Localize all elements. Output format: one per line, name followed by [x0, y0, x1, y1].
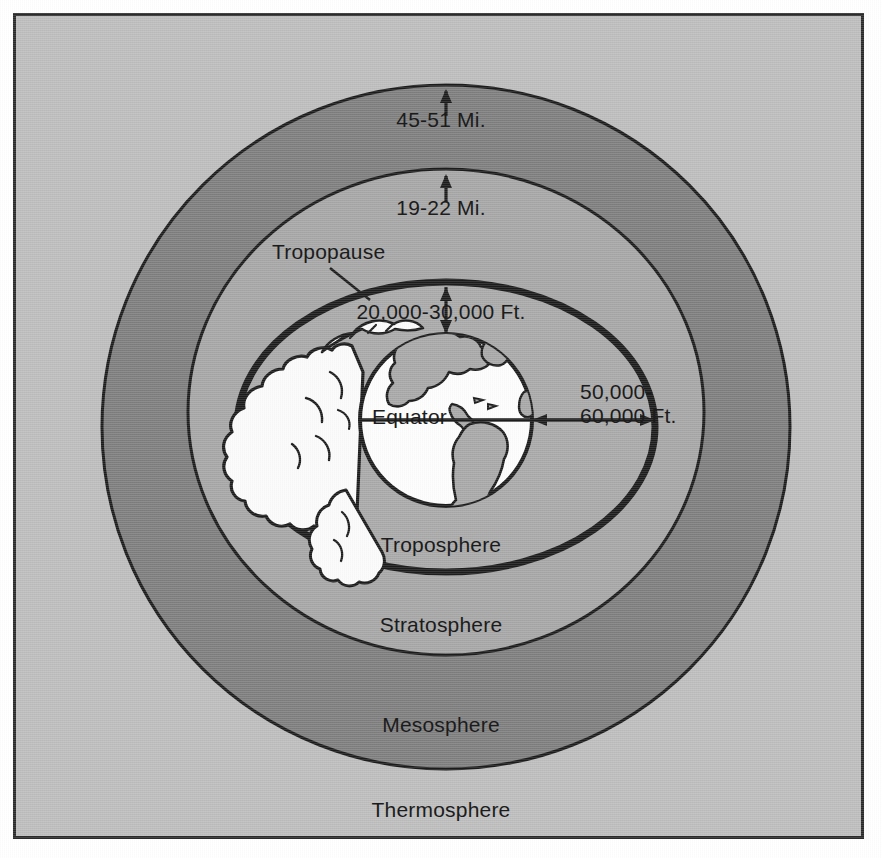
- measure-label-tropopause-equator: 50,000- 60,000 Ft.: [580, 380, 677, 427]
- layer-label-troposphere: Troposphere: [0, 533, 882, 557]
- atmosphere-diagram: 45-51 Mi. 19-22 Mi. Tropopause 20,000-30…: [0, 0, 882, 858]
- layer-label-mesosphere: Mesosphere: [0, 713, 882, 737]
- tropopause-label: Tropopause: [272, 240, 385, 264]
- measure-label-mesopause-altitude: 45-51 Mi.: [0, 108, 882, 132]
- measure-label-tropopause-polar: 20,000-30,000 Ft.: [0, 300, 882, 324]
- measure-label-stratopause-altitude: 19-22 Mi.: [0, 196, 882, 220]
- layer-label-stratosphere: Stratosphere: [0, 613, 882, 637]
- layer-label-thermosphere: Thermosphere: [0, 798, 882, 822]
- equator-label: Equator: [372, 405, 447, 429]
